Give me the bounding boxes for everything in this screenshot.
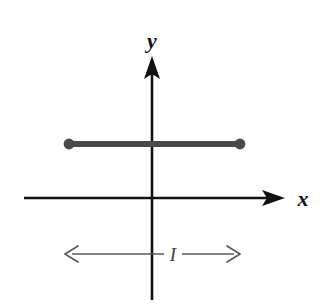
- coordinate-plane-diagram: y x I: [0, 0, 328, 308]
- interval-endpoint-left: [64, 139, 75, 150]
- x-axis-label: x: [297, 186, 309, 211]
- interval-endpoint-right: [235, 139, 246, 150]
- figure-background: [0, 0, 328, 308]
- figure-canvas: y x I: [0, 0, 328, 308]
